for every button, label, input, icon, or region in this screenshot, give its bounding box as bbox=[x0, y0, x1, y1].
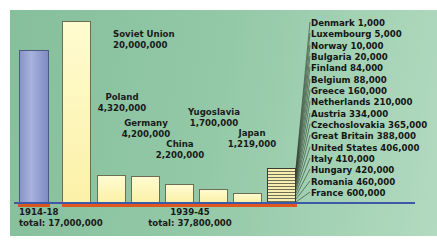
label-germany: Germany 4,200,000 bbox=[119, 118, 173, 140]
label-china: China 2,200,000 bbox=[153, 139, 207, 161]
label-poland-name: Poland bbox=[97, 92, 147, 103]
bar-yugoslavia bbox=[199, 189, 228, 203]
label-china-name: China bbox=[153, 139, 207, 150]
label-poland-value: 4,320,000 bbox=[97, 103, 147, 114]
bar-poland bbox=[97, 175, 126, 203]
bar-soviet-union bbox=[62, 21, 91, 203]
label-soviet-union-value: 20,000,000 bbox=[113, 40, 175, 51]
list-item-denmark: Denmark 1,000 bbox=[311, 18, 427, 29]
list-item-italy: Italy 410,000 bbox=[311, 154, 427, 165]
label-yugoslavia-name: Yugoslavia bbox=[185, 107, 243, 118]
list-item-austria: Austria 334,000 bbox=[311, 109, 427, 120]
list-item-france: France 600,000 bbox=[311, 188, 427, 199]
list-item-finland: Finland 84,000 bbox=[311, 63, 427, 74]
other-countries-list: Denmark 1,000 Luxembourg 5,000 Norway 10… bbox=[311, 18, 427, 200]
list-item-norway: Norway 10,000 bbox=[311, 41, 427, 52]
label-ww2-period: 1939-45 bbox=[140, 207, 240, 218]
label-japan-name: Japan bbox=[226, 128, 278, 139]
label-soviet-union-name: Soviet Union bbox=[113, 29, 175, 40]
label-china-value: 2,200,000 bbox=[153, 150, 207, 161]
bar-china bbox=[165, 184, 194, 203]
list-item-great-britain: Great Britain 388,000 bbox=[311, 131, 427, 142]
bar-other-countries-stacked bbox=[267, 168, 296, 203]
list-item-luxembourg: Luxembourg 5,000 bbox=[311, 29, 427, 40]
list-item-romania: Romania 460,000 bbox=[311, 177, 427, 188]
list-item-united-states: United States 406,000 bbox=[311, 143, 427, 154]
list-item-hungary: Hungary 420,000 bbox=[311, 165, 427, 176]
label-yugoslavia: Yugoslavia 1,700,000 bbox=[185, 107, 243, 129]
label-ww2-total: total: 37,800,000 bbox=[140, 218, 240, 229]
label-ww2-group: 1939-45 total: 37,800,000 bbox=[140, 207, 240, 229]
label-ww1-group: 1914-18 total: 17,000,000 bbox=[19, 207, 103, 229]
list-item-belgium: Belgium 88,000 bbox=[311, 75, 427, 86]
list-item-greece: Greece 160,000 bbox=[311, 86, 427, 97]
axis-line bbox=[14, 202, 415, 204]
label-japan: Japan 1,219,000 bbox=[226, 128, 278, 150]
label-ww1-period: 1914-18 bbox=[19, 207, 103, 218]
label-poland: Poland 4,320,000 bbox=[97, 92, 147, 114]
label-ww1-total: total: 17,000,000 bbox=[19, 218, 103, 229]
bar-germany bbox=[131, 176, 160, 203]
label-germany-name: Germany bbox=[119, 118, 173, 129]
list-item-netherlands: Netherlands 210,000 bbox=[311, 97, 427, 108]
label-japan-value: 1,219,000 bbox=[226, 139, 278, 150]
bar-ww1-total bbox=[19, 50, 49, 203]
label-soviet-union: Soviet Union 20,000,000 bbox=[113, 29, 175, 51]
list-item-bulgaria: Bulgaria 20,000 bbox=[311, 52, 427, 63]
list-item-czechoslovakia: Czechoslovakia 365,000 bbox=[311, 120, 427, 131]
